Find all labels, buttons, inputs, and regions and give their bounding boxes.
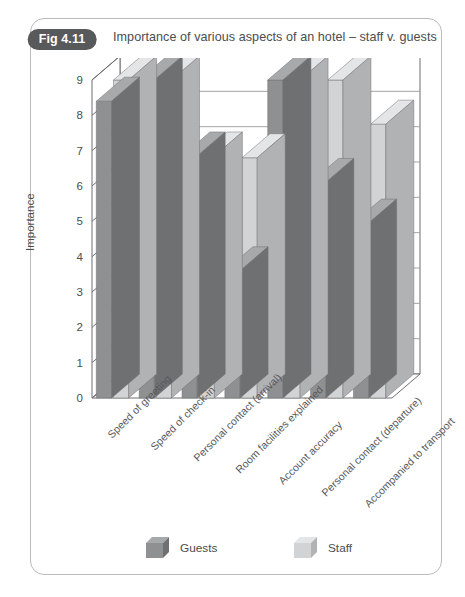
- legend-swatch-staff-icon: [293, 536, 319, 560]
- legend-label-staff: Staff: [328, 541, 352, 555]
- y-tick-label: 4: [77, 251, 84, 263]
- y-tick-label: 6: [77, 180, 83, 192]
- x-axis-label-6: Accompanied to transport: [362, 415, 457, 510]
- y-tick-label: 2: [77, 321, 83, 333]
- figure-number-badge: Fig 4.11: [28, 29, 97, 50]
- bar-chart: Importance 0123456789: [30, 58, 442, 428]
- chart-legend: Guests Staff: [30, 532, 442, 572]
- y-tick-label: 3: [77, 286, 83, 298]
- legend-entry-guests: Guests: [145, 536, 217, 560]
- y-tick-label: 0: [77, 392, 83, 404]
- y-tick-label: 7: [77, 145, 83, 157]
- legend-entry-staff: Staff: [293, 536, 352, 560]
- bar-guests-0: [96, 77, 139, 398]
- plot-area: 0123456789: [30, 58, 442, 428]
- x-axis-category-labels: Speed of greetingSpeed of check-inPerson…: [30, 428, 442, 540]
- y-tick-label: 8: [77, 109, 83, 121]
- figure-title: Importance of various aspects of an hote…: [113, 30, 437, 44]
- y-tick-label: 5: [77, 215, 83, 227]
- y-tick-label: 9: [77, 74, 83, 86]
- legend-swatch-guests-icon: [145, 536, 171, 560]
- legend-label-guests: Guests: [180, 541, 217, 555]
- y-tick-label: 1: [77, 357, 83, 369]
